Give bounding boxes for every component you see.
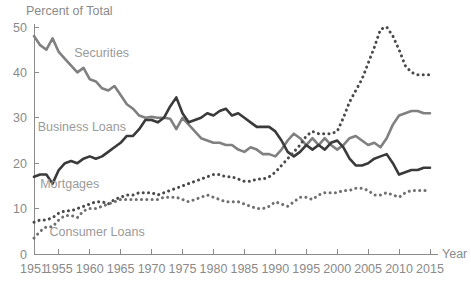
x-axis-tick-label: 1975 [169,262,197,276]
x-axis-tick-label: 1980 [200,262,228,276]
series-label-business-loans: Business Loans [38,120,126,134]
x-axis-tick-label: 1951 [20,262,48,276]
x-axis-tick-label: 1955 [45,262,73,276]
x-axis-title: Year [442,247,467,261]
y-axis-tick-label: 0 [20,248,27,262]
line-chart-svg: 0102030405019511955196019651970197519801… [0,0,471,288]
x-axis-tick-label: 1965 [107,262,135,276]
x-axis-tick-label: 2010 [385,262,413,276]
y-axis-tick-label: 50 [13,21,27,35]
x-axis-tick-label: 2000 [323,262,351,276]
y-axis-tick-label: 40 [13,66,27,80]
y-axis-tick-label: 30 [13,111,27,125]
x-axis-tick-label: 1995 [292,262,320,276]
y-axis-tick-label: 20 [13,157,27,171]
series-label-consumer-loans: Consumer Loans [49,225,144,239]
y-axis-tick-label: 10 [13,202,27,216]
series-label-mortgages: Mortgages [40,177,99,191]
series-line-business-loans [34,97,430,183]
x-axis-tick-label: 1985 [230,262,258,276]
x-axis-tick-label: 2005 [354,262,382,276]
chart-container: 0102030405019511955196019651970197519801… [0,0,471,288]
x-axis-tick-label: 1990 [261,262,289,276]
chart-annotations: SecuritiesBusiness LoansMortgagesConsume… [38,46,145,239]
y-axis-title: Percent of Total [26,4,113,18]
x-axis-tick-label: 1960 [76,262,104,276]
x-axis-tick-label: 1970 [138,262,166,276]
series-label-securities: Securities [74,46,129,60]
x-axis-tick-label: 2015 [416,262,444,276]
